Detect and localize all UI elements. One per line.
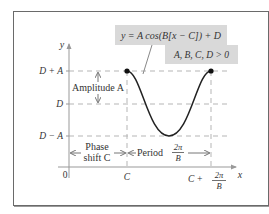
phase-shift-label-1: Phase — [85, 141, 109, 152]
phase-shift-label-2: shift C — [84, 152, 111, 163]
condition-text: A, B, C, D > 0 — [173, 50, 229, 60]
amplitude-label: Amplitude A — [72, 82, 125, 93]
tick-d-minus-a: D − A — [38, 131, 63, 141]
tick-d-plus-a: D + A — [38, 66, 63, 76]
tick-two-pi: 2π — [215, 170, 224, 180]
equation-text: y = A cos(B[x − C]) + D — [120, 30, 222, 42]
equation-pointer — [143, 45, 152, 74]
tick-c-plus-prefix: C + — [188, 174, 203, 184]
tick-b: B — [216, 181, 221, 191]
period-label: Period — [137, 147, 163, 158]
tick-c: C — [124, 172, 131, 182]
cosine-graph-diagram: y = A cos(B[x − C]) + D A, B, C, D > 0 y… — [0, 0, 269, 214]
horizontal-guides — [69, 71, 229, 136]
tick-d: D — [55, 99, 63, 109]
period-b: B — [175, 153, 180, 163]
max-point-left — [124, 68, 129, 73]
y-axis-label: y — [59, 39, 65, 50]
origin-label: 0 — [63, 170, 68, 180]
x-axis-label: x — [237, 169, 243, 180]
max-point-right — [208, 68, 213, 73]
period-two-pi: 2π — [174, 142, 183, 152]
